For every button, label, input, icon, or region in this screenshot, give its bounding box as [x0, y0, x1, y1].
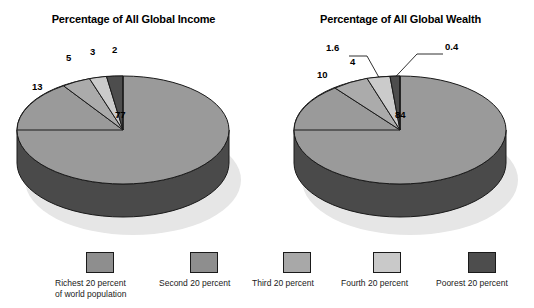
pie-value-label-third: 4 [350, 57, 355, 67]
pie-stage-income: 77 13 5 3 2 [0, 30, 267, 245]
legend-swatch-fourth [373, 252, 401, 273]
leader-line-poorest [396, 54, 443, 76]
legend-item-third[interactable]: Third 20 percent [252, 250, 342, 289]
chart-title-wealth: Percentage of All Global Wealth [267, 13, 534, 25]
pie-chart-income [0, 30, 267, 245]
figure-two-pie-charts: Percentage of All Global Income [0, 0, 534, 308]
legend-item-fourth[interactable]: Fourth 20 percent [341, 250, 433, 289]
pie-stage-wealth: 84 10 4 1.6 0.4 [267, 30, 534, 245]
pie-value-label-fourth: 1.6 [326, 43, 339, 53]
chart-panel-income: Percentage of All Global Income [0, 0, 267, 250]
legend-label-second: Second 20 percent [159, 278, 249, 289]
legend-swatch-poorest [468, 252, 496, 273]
legend-swatch-third [283, 252, 311, 273]
chart-panel-wealth: Percentage of All Global Wealth 84 [267, 0, 534, 250]
legend-label-fourth: Fourth 20 percent [341, 278, 433, 289]
pie-value-label-richest: 84 [395, 110, 406, 120]
legend-item-poorest[interactable]: Poorest 20 percent [436, 250, 528, 289]
pie-value-label-second: 13 [32, 82, 43, 92]
legend-label-poorest: Poorest 20 percent [436, 278, 528, 289]
legend-item-richest[interactable]: Richest 20 percent of world population [55, 250, 145, 299]
chart-legend: Richest 20 percent of world population S… [0, 250, 534, 308]
pie-value-label-poorest: 2 [112, 45, 117, 55]
legend-swatch-second [190, 252, 218, 273]
pie-value-label-richest: 77 [115, 110, 126, 120]
pie-value-label-second: 10 [317, 70, 328, 80]
legend-label-third: Third 20 percent [252, 278, 342, 289]
pie-value-label-fourth: 3 [90, 47, 95, 57]
legend-swatch-richest [86, 252, 114, 273]
pie-value-label-poorest: 0.4 [445, 42, 458, 52]
chart-title-income: Percentage of All Global Income [0, 13, 267, 25]
legend-label-richest: Richest 20 percent of world population [55, 278, 145, 299]
pie-chart-wealth [267, 30, 534, 245]
legend-item-second[interactable]: Second 20 percent [159, 250, 249, 289]
pie-value-label-third: 5 [66, 53, 71, 63]
